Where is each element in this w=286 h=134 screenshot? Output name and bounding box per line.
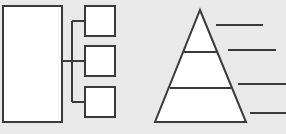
main-block-rect[interactable] [3,6,62,122]
branch-box-3[interactable] [85,87,115,117]
diagram-canvas [0,0,286,134]
diagram-svg [0,0,286,134]
branch-box-1[interactable] [85,6,115,36]
branch-box-2[interactable] [85,46,115,76]
block-diagram-with-three-branches [3,6,115,122]
